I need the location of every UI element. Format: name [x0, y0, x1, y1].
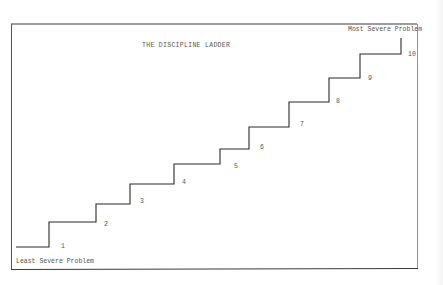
step-label-8: 8 — [336, 98, 340, 105]
step-label-2: 2 — [104, 221, 108, 228]
step-label-6: 6 — [260, 144, 264, 151]
step-label-7: 7 — [300, 121, 304, 128]
most-severe-label: Most Severe Problem — [348, 26, 422, 33]
step-label-4: 4 — [182, 179, 186, 186]
scan-edge — [435, 0, 443, 285]
staircase-line — [16, 38, 401, 247]
step-label-5: 5 — [234, 163, 238, 170]
step-label-10: 10 — [408, 51, 416, 58]
diagram-border — [11, 24, 418, 270]
step-labels: 1 2 3 4 5 6 7 8 9 10 — [61, 51, 416, 250]
step-label-1: 1 — [61, 243, 65, 250]
diagram-title: THE DISCIPLINE LADDER — [142, 42, 230, 49]
discipline-ladder-diagram: THE DISCIPLINE LADDER Most Severe Proble… — [0, 0, 443, 285]
least-severe-label: Least Severe Problem — [16, 258, 94, 265]
step-label-3: 3 — [140, 198, 144, 205]
step-label-9: 9 — [368, 75, 372, 82]
